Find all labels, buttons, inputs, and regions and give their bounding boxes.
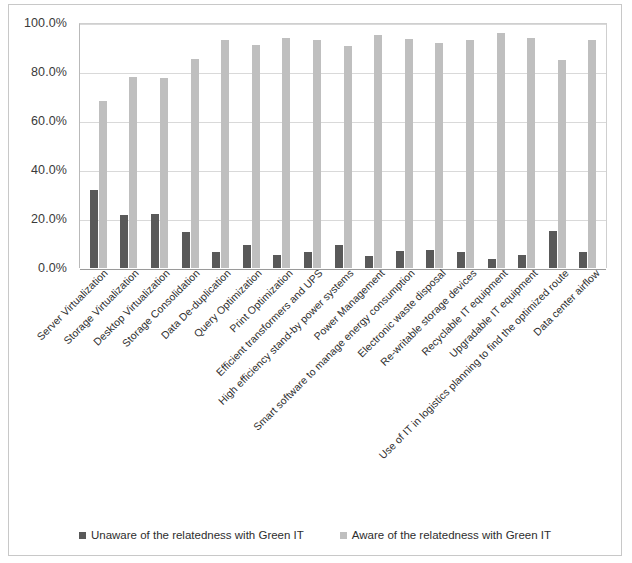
y-axis-tick-label: 80.0%	[31, 65, 67, 79]
bar-unaware	[90, 190, 98, 268]
y-axis-tick-label: 40.0%	[31, 163, 67, 177]
legend-swatch-aware	[340, 532, 347, 539]
bar-aware	[99, 101, 107, 268]
legend-item: Aware of the relatedness with Green IT	[340, 529, 551, 541]
y-axis-tick-label: 20.0%	[31, 212, 67, 226]
legend-swatch-unaware	[79, 532, 86, 539]
legend-label: Aware of the relatedness with Green IT	[352, 529, 551, 541]
y-axis-tick-label: 60.0%	[31, 114, 67, 128]
plot-wrapper: 100.0%80.0%60.0%40.0%20.0%0.0% Server Vi…	[9, 5, 621, 555]
y-axis-tick-label: 0.0%	[38, 261, 67, 275]
y-axis: 100.0%80.0%60.0%40.0%20.0%0.0%	[9, 19, 73, 276]
legend-label: Unaware of the relatedness with Green IT	[91, 529, 304, 541]
y-axis-tick-label: 100.0%	[24, 16, 67, 30]
chart-container: 100.0%80.0%60.0%40.0%20.0%0.0% Server Vi…	[8, 4, 622, 556]
chart-legend: Unaware of the relatedness with Green IT…	[9, 529, 621, 541]
legend-item: Unaware of the relatedness with Green IT	[79, 529, 304, 541]
bar-group	[83, 24, 114, 268]
